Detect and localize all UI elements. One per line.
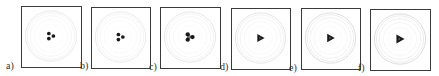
figure-panel (231, 8, 291, 70)
core-triangle-icon (257, 34, 264, 42)
intensity-pattern-image (371, 10, 430, 70)
core-trefoil-dots-icon (117, 33, 125, 42)
figure-panel (370, 9, 431, 71)
panel-label: a) (6, 61, 14, 71)
panel-label: e) (289, 63, 297, 73)
panel-label: f) (358, 63, 365, 73)
figure-panel (21, 6, 82, 68)
intensity-pattern-image (302, 9, 360, 69)
panel-label: d) (220, 62, 228, 72)
intensity-pattern-image (92, 8, 150, 68)
figure-panel (91, 7, 151, 69)
core-trefoil-dots-icon (47, 32, 55, 41)
intensity-pattern-image (232, 9, 290, 69)
intensity-pattern-image (161, 8, 220, 68)
panel-label: b) (80, 61, 88, 71)
diffraction-rings (95, 12, 145, 62)
figure-panel (301, 8, 361, 70)
core-triangle-icon (396, 35, 404, 44)
diffraction-rings (25, 11, 76, 61)
panel-label: c) (149, 62, 157, 72)
intensity-pattern-image (22, 7, 81, 67)
core-trefoil-mixed-icon (186, 32, 195, 42)
figure-panel (160, 7, 221, 69)
core-triangle-icon (327, 34, 335, 42)
